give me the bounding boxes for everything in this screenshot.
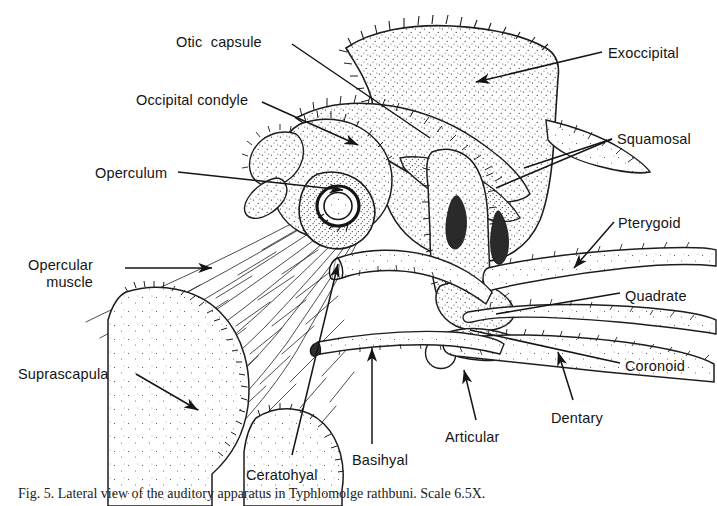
label-quadrate-line-0: Quadrate — [625, 288, 687, 305]
label-basihyal-line-0: Basihyal — [352, 452, 408, 469]
label-exoccipital: Exoccipital — [608, 45, 679, 62]
label-operculum: Operculum — [95, 165, 167, 182]
label-opercular-muscle: Opercularmuscle — [28, 257, 93, 291]
label-occipital-condyle-line-0: Occipital condyle — [136, 92, 248, 109]
label-quadrate: Quadrate — [625, 288, 687, 305]
label-coronoid-line-0: Coronoid — [625, 358, 685, 375]
leader-articular — [464, 370, 476, 420]
figure-page: Otic capsuleOccipital condyleOperculumOp… — [0, 0, 717, 506]
label-articular: Articular — [445, 429, 500, 446]
label-suprascapula: Suprascapula — [18, 366, 108, 383]
label-opercular-muscle-line-0: Opercular — [28, 257, 93, 274]
label-ceratohyal-line-0: Ceratohyal — [246, 467, 318, 484]
label-dentary-line-0: Dentary — [551, 410, 603, 427]
label-exoccipital-line-0: Exoccipital — [608, 45, 679, 62]
label-basihyal: Basihyal — [352, 452, 408, 469]
label-operculum-line-0: Operculum — [95, 165, 167, 182]
label-ceratohyal: Ceratohyal — [246, 467, 318, 484]
label-dentary: Dentary — [551, 410, 603, 427]
label-squamosal-line-0: Squamosal — [617, 131, 691, 148]
label-coronoid: Coronoid — [625, 358, 685, 375]
label-pterygoid-line-0: Pterygoid — [618, 215, 681, 232]
figure-caption: Fig. 5. Lateral view of the auditory app… — [18, 486, 708, 502]
label-suprascapula-line-0: Suprascapula — [18, 366, 108, 383]
label-opercular-muscle-line-1: muscle — [28, 274, 93, 291]
label-occipital-condyle: Occipital condyle — [136, 92, 248, 109]
label-articular-line-0: Articular — [445, 429, 500, 446]
suprascapula-shape — [108, 281, 249, 506]
label-otic-capsule-line-0: Otic capsule — [176, 34, 262, 51]
label-squamosal: Squamosal — [617, 131, 691, 148]
anatomical-illustration — [0, 0, 717, 506]
label-otic-capsule: Otic capsule — [176, 34, 262, 51]
label-pterygoid: Pterygoid — [618, 215, 681, 232]
